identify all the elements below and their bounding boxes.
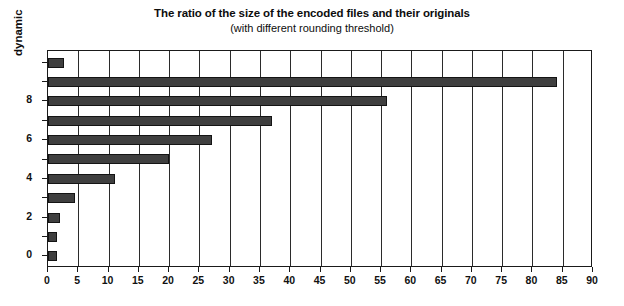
y-tick: [42, 159, 47, 160]
y-tick-label: 4: [0, 171, 38, 183]
chart-title-block: The ratio of the size of the encoded fil…: [0, 6, 624, 35]
x-tick: [531, 267, 532, 272]
chart-figure: The ratio of the size of the encoded fil…: [0, 0, 624, 306]
y-tick: [42, 217, 47, 218]
bar-row: [48, 111, 272, 130]
x-tick: [138, 267, 139, 272]
x-tick-label: 85: [547, 274, 577, 286]
chart-subtitle: (with different rounding threshold): [0, 21, 624, 35]
y-tick-label: 2: [0, 210, 38, 222]
x-tick: [562, 267, 563, 272]
y-tick: [42, 120, 47, 121]
bar-row: [48, 53, 64, 72]
bar-row: [48, 150, 169, 169]
bar-row: [48, 92, 387, 111]
x-tick: [229, 267, 230, 272]
x-tick-label: 40: [274, 274, 304, 286]
bar: [48, 251, 57, 261]
bar-row: [48, 208, 60, 227]
plot-area: [47, 50, 592, 267]
chart-title: The ratio of the size of the encoded fil…: [0, 6, 624, 20]
x-tick: [441, 267, 442, 272]
x-tick: [108, 267, 109, 272]
x-tick-label: 35: [244, 274, 274, 286]
bar: [48, 58, 64, 68]
y-tick: [42, 81, 47, 82]
bar: [48, 116, 272, 126]
bar-row: [48, 130, 212, 149]
bar-row: [48, 169, 115, 188]
x-tick: [259, 267, 260, 272]
x-tick: [168, 267, 169, 272]
x-tick: [501, 267, 502, 272]
x-tick-label: 90: [577, 274, 607, 286]
y-tick-label: 0: [0, 248, 38, 260]
bar-series: [48, 51, 591, 266]
x-tick: [350, 267, 351, 272]
x-tick: [289, 267, 290, 272]
y-tick: [42, 62, 47, 63]
x-tick-label: 10: [93, 274, 123, 286]
x-tick-label: 5: [62, 274, 92, 286]
x-tick-label: 20: [153, 274, 183, 286]
x-tick-label: 80: [516, 274, 546, 286]
x-tick: [380, 267, 381, 272]
bar: [48, 135, 212, 145]
y-tick: [42, 255, 47, 256]
bar-row: [48, 72, 557, 91]
x-tick: [320, 267, 321, 272]
x-tick-label: 25: [183, 274, 213, 286]
x-tick: [198, 267, 199, 272]
x-tick: [47, 267, 48, 272]
y-tick: [42, 197, 47, 198]
y-axis-title: dynamic: [12, 9, 24, 56]
x-tick: [592, 267, 593, 272]
bar: [48, 154, 169, 164]
bar-row: [48, 247, 57, 266]
bar: [48, 77, 557, 87]
x-tick-label: 70: [456, 274, 486, 286]
bar: [48, 193, 75, 203]
x-tick-label: 60: [395, 274, 425, 286]
x-tick: [77, 267, 78, 272]
x-tick-label: 65: [426, 274, 456, 286]
x-tick-label: 50: [335, 274, 365, 286]
bar-row: [48, 227, 57, 246]
y-tick-label: 8: [0, 93, 38, 105]
x-tick-label: 45: [305, 274, 335, 286]
x-tick-label: 0: [32, 274, 62, 286]
bar: [48, 213, 60, 223]
y-tick: [42, 100, 47, 101]
x-tick-label: 55: [365, 274, 395, 286]
x-tick: [471, 267, 472, 272]
y-tick: [42, 236, 47, 237]
y-tick-label: 6: [0, 132, 38, 144]
y-tick: [42, 178, 47, 179]
x-tick-label: 30: [214, 274, 244, 286]
bar: [48, 96, 387, 106]
x-tick-label: 75: [486, 274, 516, 286]
y-tick: [42, 139, 47, 140]
bar-row: [48, 189, 75, 208]
x-tick: [410, 267, 411, 272]
bar: [48, 174, 115, 184]
x-tick-label: 15: [123, 274, 153, 286]
bar: [48, 232, 57, 242]
